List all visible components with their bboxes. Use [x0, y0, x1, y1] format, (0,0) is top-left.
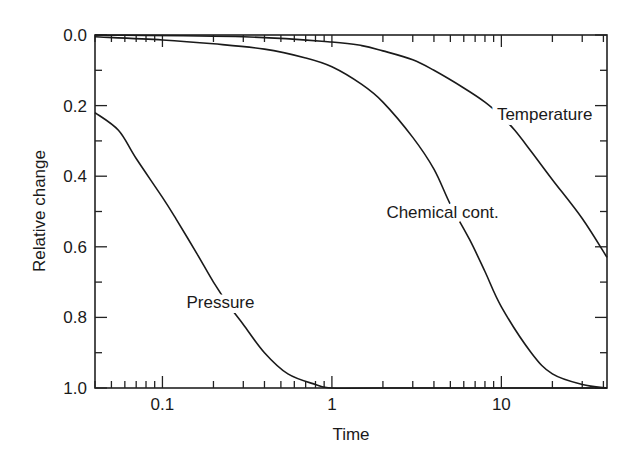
- y-tick-label: 0.0: [63, 26, 87, 45]
- curve-temperature: [95, 35, 607, 257]
- x-tick-label: 1: [327, 395, 336, 414]
- plot-axes: 0.00.20.40.60.81.00.1110: [63, 26, 607, 414]
- x-tick-label: 10: [492, 395, 511, 414]
- curve-labels: PressureChemical cont.Temperature: [186, 105, 592, 311]
- y-tick-label: 0.4: [63, 167, 87, 186]
- curve-label: Chemical cont.: [386, 203, 498, 222]
- curves: [95, 35, 607, 388]
- y-tick-label: 0.6: [63, 238, 87, 257]
- y-axis-label: Relative change: [30, 150, 49, 272]
- curve-pressure: [95, 113, 607, 389]
- x-axis-label: Time: [332, 425, 369, 444]
- y-tick-label: 1.0: [63, 379, 87, 398]
- y-tick-label: 0.2: [63, 97, 87, 116]
- line-chart: 0.00.20.40.60.81.00.1110 PressureChemica…: [0, 0, 631, 459]
- y-tick-label: 0.8: [63, 308, 87, 327]
- curve-label: Pressure: [186, 293, 254, 312]
- x-tick-label: 0.1: [151, 395, 175, 414]
- curve-label: Temperature: [497, 105, 592, 124]
